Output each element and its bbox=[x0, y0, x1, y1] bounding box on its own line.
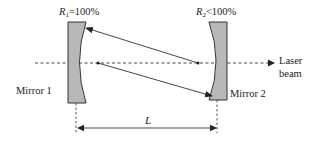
r1-label: R1=100% bbox=[59, 7, 99, 19]
diagram-graphics bbox=[0, 0, 318, 141]
ray-to-mirror-2 bbox=[98, 63, 212, 96]
r2-label: R2<100% bbox=[196, 7, 236, 19]
mirror-2-label: Mirror 2 bbox=[230, 89, 266, 100]
laser-beam-label-line-1: Laser bbox=[279, 56, 302, 67]
mirror-2-shape bbox=[209, 22, 227, 100]
ray-origin-dot-right bbox=[197, 62, 200, 65]
cavity-length-label: L bbox=[145, 115, 151, 126]
laser-cavity-diagram: R1=100% R2<100% Mirror 1 Mirror 2 Laser … bbox=[0, 0, 318, 141]
ray-origin-dot-left bbox=[97, 62, 100, 65]
ray-to-mirror-1 bbox=[86, 28, 198, 63]
length-arrowhead-right bbox=[210, 125, 217, 131]
length-arrowhead-left bbox=[77, 125, 84, 131]
laser-beam-label-line-2: beam bbox=[279, 69, 302, 80]
mirror-1-label: Mirror 1 bbox=[16, 86, 52, 97]
mirror-1-shape bbox=[68, 22, 86, 103]
axis-arrowhead bbox=[268, 60, 275, 67]
r2-value: <100% bbox=[206, 6, 236, 17]
r1-value: =100% bbox=[69, 6, 99, 17]
